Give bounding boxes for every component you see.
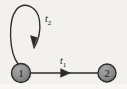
- edge-label-t2-subscript: 2: [48, 19, 52, 27]
- diagram-figure: 1 2 t2 t1: [0, 0, 127, 89]
- edge-label-t1-subscript: 1: [63, 61, 67, 69]
- edge-t1-arrow: [31, 69, 99, 78]
- node-1[interactable]: 1: [12, 64, 31, 83]
- edge-t2-path: [11, 5, 40, 64]
- edge-label-t2: t2: [45, 13, 52, 27]
- edge-t1-arrowhead: [61, 69, 71, 78]
- node-2[interactable]: 2: [98, 64, 116, 82]
- diagram-canvas: 1 2 t2 t1: [0, 0, 127, 89]
- node-1-circle[interactable]: [12, 64, 31, 83]
- edge-t2-arrowhead: [30, 36, 37, 48]
- edge-t2-selfloop: [11, 5, 40, 64]
- edge-label-t1: t1: [60, 55, 67, 69]
- node-2-circle[interactable]: [98, 64, 116, 82]
